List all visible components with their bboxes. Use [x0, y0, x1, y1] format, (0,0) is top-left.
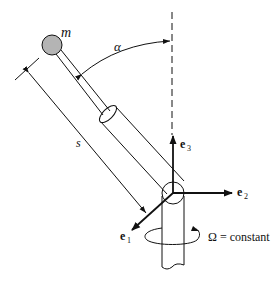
e3-sub: 3 — [187, 144, 191, 153]
angle-alpha-arc — [82, 41, 170, 74]
e1-sub: 1 — [127, 236, 131, 245]
e3-base: e — [180, 137, 186, 151]
e1-label: e 1 — [120, 229, 131, 245]
mechanics-diagram: m α s e 3 e 2 e 1 Ω = constant — [0, 0, 280, 283]
angle-alpha-label: α — [114, 39, 122, 54]
omega-label: Ω = constant — [208, 230, 270, 244]
rotation-arrowhead-icon — [191, 226, 199, 231]
length-s-tick — [15, 58, 39, 80]
vertical-shaft — [162, 196, 184, 269]
length-s-label: s — [76, 136, 81, 150]
mass-label: m — [61, 25, 71, 40]
e2-base: e — [237, 185, 243, 199]
e1-base: e — [120, 229, 126, 243]
e3-label: e 3 — [180, 137, 191, 153]
e2-sub: 2 — [244, 192, 248, 201]
mass-ball — [42, 35, 62, 55]
e2-label: e 2 — [237, 185, 248, 201]
e1-vector — [132, 193, 173, 230]
